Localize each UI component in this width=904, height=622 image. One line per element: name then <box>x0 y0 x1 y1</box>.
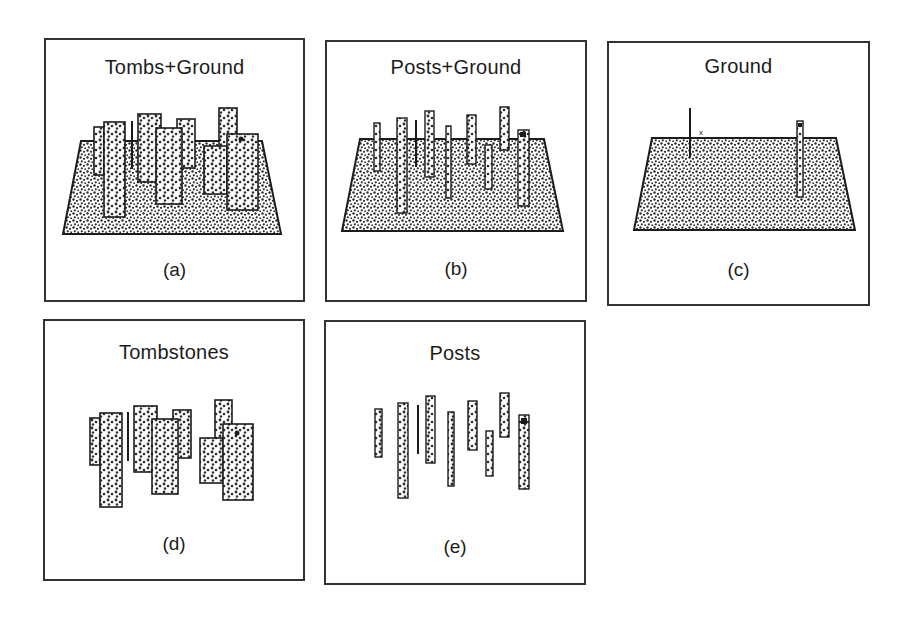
panel-e: Posts (e) <box>324 320 586 585</box>
marker <box>235 431 240 436</box>
tombstone <box>156 128 182 204</box>
panel-b-label: (b) <box>327 258 585 280</box>
panel-c: Ground x (c) <box>607 41 870 306</box>
marker <box>798 123 802 127</box>
ground-remnant-marker: x <box>699 128 703 137</box>
tombstone <box>104 122 125 217</box>
panel-d: Tombstones (d) <box>43 319 305 581</box>
post <box>425 111 434 177</box>
panel-a: Tombs+Ground (a) <box>44 38 305 302</box>
tombstone <box>223 424 253 500</box>
tombstone <box>200 438 223 483</box>
tombstone <box>90 418 100 465</box>
panel-e-label: (e) <box>326 536 584 558</box>
ground-remnant-post <box>797 121 803 197</box>
tombstone <box>204 146 227 194</box>
post <box>519 415 529 489</box>
panel-d-label: (d) <box>45 533 303 555</box>
post <box>485 145 492 189</box>
post <box>467 115 476 164</box>
tombstone <box>152 419 178 494</box>
post <box>486 431 493 476</box>
post <box>398 403 408 498</box>
tombstone <box>227 134 258 210</box>
post <box>446 126 451 198</box>
post <box>397 118 407 213</box>
post <box>468 401 477 450</box>
post <box>518 130 529 206</box>
panel-c-label: (c) <box>609 259 868 281</box>
panel-a-label: (a) <box>46 259 303 281</box>
post <box>375 409 382 457</box>
panel-b: Posts+Ground (b) <box>325 40 587 302</box>
post <box>448 412 454 486</box>
ground-surface <box>634 138 855 230</box>
marker <box>239 137 244 142</box>
post <box>374 123 380 171</box>
marker <box>521 418 527 424</box>
marker <box>520 132 526 137</box>
post <box>500 107 509 150</box>
post <box>426 396 435 463</box>
tombstone <box>100 413 122 507</box>
post <box>500 393 509 437</box>
tombstone <box>94 127 104 175</box>
